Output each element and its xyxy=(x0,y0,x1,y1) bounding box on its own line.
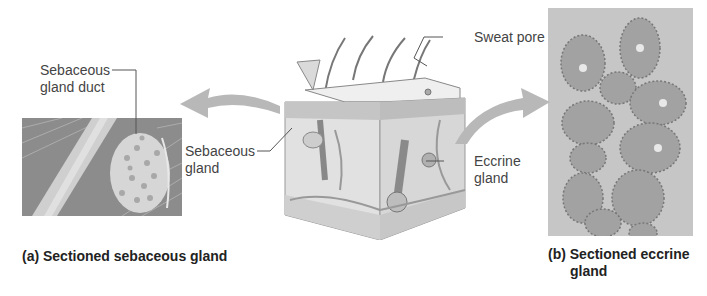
label-sebaceous-gland-duct: Sebaceous gland duct xyxy=(40,62,110,96)
caption-b: (b) Sectioned eccrine gland xyxy=(548,246,690,280)
caption-a: (a) Sectioned sebaceous gland xyxy=(22,248,227,265)
label-sebaceous-gland: Sebaceous gland xyxy=(185,143,255,177)
label-eccrine-gland: Eccrine gland xyxy=(474,153,521,187)
label-sweat-pore: Sweat pore xyxy=(474,29,545,46)
